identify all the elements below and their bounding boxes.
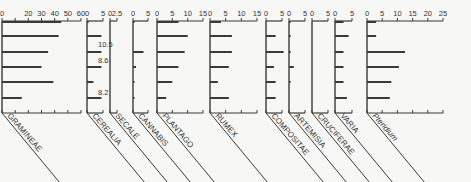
bar [87,66,101,68]
panel-rumex: 051015RUMEX [208,9,268,182]
bar [133,97,135,99]
bar [2,81,53,83]
tick-label: 15 [199,9,207,18]
tick-label: 0 [310,9,314,18]
tick-label: 0 [287,9,291,18]
bar [133,66,136,68]
bar [157,66,178,68]
tick-label: 25 [439,9,447,18]
bar [335,97,347,99]
tick-label: 5 [224,9,228,18]
tick-label: 0 [333,9,337,18]
bar [367,66,399,68]
tick-label: 5 [101,9,105,18]
bar [335,66,344,68]
tick-label: 30 [37,9,45,18]
panel-artemisia: 05ARTEMISIA [287,9,347,182]
tick-label: 10 [237,9,245,18]
tick-label: 0 [365,9,369,18]
bar [87,35,101,37]
tick-label: 10 [393,9,401,18]
bar [289,51,291,53]
tick-label: 0 [85,9,89,18]
bar [2,21,61,23]
bar [266,51,284,53]
bar [367,97,390,99]
bar [367,51,405,53]
tick-label: 60 [77,9,85,18]
depth-label: 8.6 [98,56,108,65]
bar [289,81,291,83]
bar [289,21,291,23]
bar [210,21,221,23]
bar [87,21,89,23]
tick-label: 15 [253,9,261,18]
panel-compositae: 05COMPOSITAE [264,9,324,182]
tick-label: 20 [424,9,432,18]
panel-cannabis: 05CANNABIS [131,9,191,182]
bar [266,66,274,68]
pollen-diagram: 02030405060GRAMINEAE05CEREALIA02.5SECALE… [0,0,471,182]
tick-label: 20 [24,9,32,18]
tick-label: 0 [208,9,212,18]
taxon-label: RUMEX [213,111,239,139]
bar [210,51,232,53]
bar [367,81,391,83]
tick-label: 15 [408,9,416,18]
bar [157,51,185,53]
bar [87,51,101,53]
bar [133,81,135,83]
bar [210,97,229,99]
tick-label: 0 [131,9,135,18]
bar [289,66,294,68]
tick-label: 5 [170,9,174,18]
tick-label: 5 [303,9,307,18]
taxon-label: GRAMINEAE [5,111,43,153]
tick-label: 40 [50,9,58,18]
bar [210,81,218,83]
bar [2,35,59,37]
bar [133,51,144,53]
bar [157,97,166,99]
panel-varia: 05VARIA [333,9,393,182]
tick-label: 0 [155,9,159,18]
depth-label: 8.2 [98,88,108,97]
bar [335,21,344,23]
bar [210,66,229,68]
panel-secale: 02.5SECALE [108,9,168,182]
bar [266,97,276,99]
bar [210,35,232,37]
tick-label: 2.5 [112,9,122,18]
tick-label: 0 [0,9,4,18]
bar [157,21,178,23]
bar [266,81,276,83]
bar [87,81,93,83]
bar [335,35,349,37]
tick-label: 0 [264,9,268,18]
bar [335,51,344,53]
panel-gramineae: 02030405060GRAMINEAE [0,9,85,182]
bar [133,21,135,23]
bar [87,97,101,99]
panel-cruciferae: 05CRUCIFERAE [310,9,370,182]
depth-label: 10.5 [98,40,113,49]
bar [335,81,344,83]
bar [2,97,22,99]
bar [157,81,172,83]
tick-label: 10 [183,9,191,18]
bar [367,35,376,37]
bar [157,35,188,37]
bar [289,35,291,37]
taxon-label: Pteridium [370,111,399,143]
tick-label: 50 [64,9,72,18]
taxon-label: VARIA [338,111,361,135]
tick-label: 5 [146,9,150,18]
tick-label: 5 [380,9,384,18]
bar [2,51,48,53]
bar [2,66,42,68]
panel-plantago: 051015PLANTAGO [155,9,215,182]
bar [367,21,376,23]
panel-pteridium: 0510152025Pteridium [365,9,447,182]
tick-label: 5 [326,9,330,18]
panel-cerealia: 05CEREALIA [85,9,145,182]
